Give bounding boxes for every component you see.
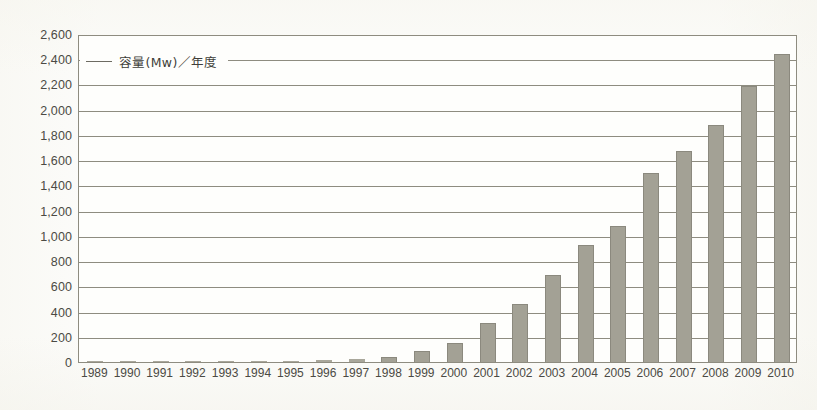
- bar-slot: [569, 36, 602, 362]
- bar-slot: [733, 36, 766, 362]
- bar: [414, 351, 430, 362]
- x-tick-label: 2001: [473, 366, 500, 380]
- x-tick-label: 2000: [440, 366, 467, 380]
- bar: [708, 125, 724, 362]
- bar: [676, 151, 692, 362]
- y-tick-label: 2,600: [8, 28, 72, 42]
- bar: [643, 173, 659, 362]
- y-tick-label: 1,400: [8, 179, 72, 193]
- bar: [578, 245, 594, 362]
- x-tick-label: 1996: [310, 366, 337, 380]
- y-tick-label: 2,200: [8, 78, 72, 92]
- bar-slot: [177, 36, 210, 362]
- bar-slot: [406, 36, 439, 362]
- x-tick-label: 2007: [669, 366, 696, 380]
- bar: [774, 54, 790, 362]
- x-tick-label: 2010: [767, 366, 794, 380]
- bar-slot: [602, 36, 635, 362]
- bar: [251, 361, 267, 362]
- x-tick-label: 1992: [179, 366, 206, 380]
- bar-slot: [439, 36, 472, 362]
- bar: [349, 359, 365, 362]
- chart-page: 02004006008001,0001,2001,4001,6001,8002,…: [0, 0, 817, 410]
- bar-slot: [210, 36, 243, 362]
- y-tick-label: 1,200: [8, 205, 72, 219]
- bar: [447, 343, 463, 362]
- y-tick-label: 1,000: [8, 230, 72, 244]
- x-tick-label: 1998: [375, 366, 402, 380]
- bar: [218, 361, 234, 362]
- bar-slot: [635, 36, 668, 362]
- bar-slot: [112, 36, 145, 362]
- bar: [545, 275, 561, 362]
- bar-slot: [275, 36, 308, 362]
- legend-label: 容量(Mw)／年度: [119, 52, 217, 71]
- x-tick-label: 2002: [506, 366, 533, 380]
- bar-slot: [308, 36, 341, 362]
- x-tick-label: 2009: [735, 366, 762, 380]
- bar: [316, 360, 332, 362]
- bar: [480, 323, 496, 362]
- bar-slot: [700, 36, 733, 362]
- bar: [741, 86, 757, 362]
- bar-series: [79, 36, 796, 362]
- x-axis: 1989199019911992199319941995199619971998…: [78, 366, 797, 388]
- x-tick-label: 2004: [571, 366, 598, 380]
- bar: [283, 361, 299, 362]
- x-tick-label: 2005: [604, 366, 631, 380]
- y-tick-label: 800: [8, 255, 72, 269]
- x-tick-label: 1999: [408, 366, 435, 380]
- bar-chart: 02004006008001,0001,2001,4001,6001,8002,…: [0, 0, 817, 410]
- y-tick-label: 0: [8, 356, 72, 370]
- x-tick-label: 1997: [342, 366, 369, 380]
- bar: [185, 361, 201, 362]
- x-tick-label: 1989: [81, 366, 108, 380]
- y-tick-label: 1,600: [8, 154, 72, 168]
- legend-line-marker: [86, 61, 112, 62]
- x-tick-label: 1990: [114, 366, 141, 380]
- bar: [120, 361, 136, 362]
- bar: [87, 361, 103, 362]
- bar-slot: [340, 36, 373, 362]
- bar-slot: [79, 36, 112, 362]
- x-tick-label: 2003: [539, 366, 566, 380]
- x-tick-label: 1993: [212, 366, 239, 380]
- x-tick-label: 1994: [244, 366, 271, 380]
- y-tick-label: 1,800: [8, 129, 72, 143]
- bar-slot: [144, 36, 177, 362]
- bar-slot: [537, 36, 570, 362]
- y-axis: 02004006008001,0001,2001,4001,6001,8002,…: [6, 35, 72, 363]
- bar-slot: [471, 36, 504, 362]
- y-tick-label: 200: [8, 331, 72, 345]
- x-tick-label: 2006: [637, 366, 664, 380]
- bar-slot: [373, 36, 406, 362]
- bar: [153, 361, 169, 362]
- legend: 容量(Mw)／年度: [86, 52, 223, 71]
- bar: [610, 226, 626, 362]
- bar-slot: [667, 36, 700, 362]
- bar: [381, 357, 397, 362]
- bar-slot: [765, 36, 798, 362]
- y-tick-label: 2,000: [8, 104, 72, 118]
- bar-slot: [504, 36, 537, 362]
- x-tick-label: 1995: [277, 366, 304, 380]
- y-tick-label: 400: [8, 306, 72, 320]
- bar: [512, 304, 528, 362]
- x-tick-label: 2008: [702, 366, 729, 380]
- bar-slot: [242, 36, 275, 362]
- y-tick-label: 600: [8, 280, 72, 294]
- x-tick-label: 1991: [146, 366, 173, 380]
- y-tick-label: 2,400: [8, 53, 72, 67]
